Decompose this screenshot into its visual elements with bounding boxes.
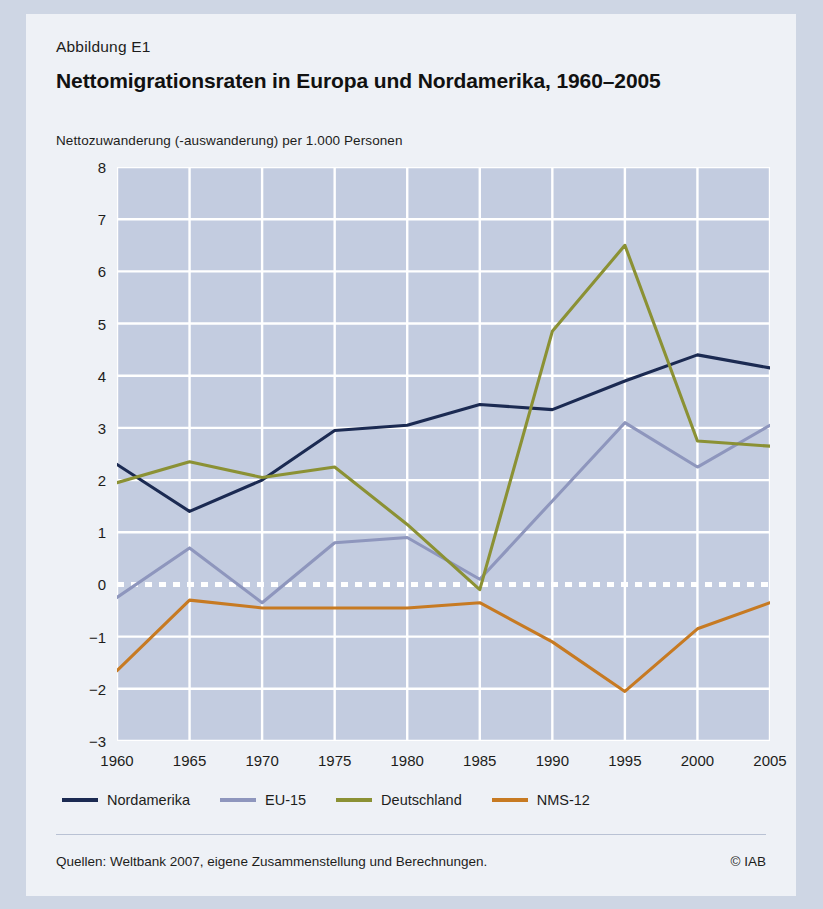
legend-label-deutschland: Deutschland [381, 792, 462, 808]
legend-label-nordamerika: Nordamerika [107, 792, 190, 808]
series-line-nms-12 [117, 600, 770, 691]
x-axis-tick-label: 2005 [753, 752, 786, 769]
chart-legend: NordamerikaEU-15DeutschlandNMS-12 [62, 792, 620, 808]
y-axis-tick-label: 5 [98, 315, 106, 332]
legend-label-nms-12: NMS-12 [537, 792, 590, 808]
legend-swatch-eu-15 [220, 798, 256, 802]
chart-plot: 876543210−1−2−3 196019651970197519801985… [117, 167, 770, 741]
legend-item-nms-12[interactable]: NMS-12 [492, 792, 590, 808]
y-axis-tick-label: −3 [89, 733, 106, 750]
series-lines [117, 245, 770, 691]
y-axis-tick-label: 3 [98, 419, 106, 436]
source-note: Quellen: Weltbank 2007, eigene Zusammens… [56, 854, 487, 869]
x-axis-tick-label: 2000 [681, 752, 714, 769]
y-axis-tick-label: 8 [98, 159, 106, 176]
x-axis-tick-label: 1980 [391, 752, 424, 769]
legend-swatch-nordamerika [62, 798, 98, 802]
copyright-note: © IAB [731, 854, 766, 869]
y-axis-tick-label: −2 [89, 680, 106, 697]
y-axis-tick-label: 4 [98, 367, 106, 384]
page-title: Nettomigrationsraten in Europa und Norda… [56, 69, 661, 93]
gridlines [117, 167, 770, 741]
chart-svg [117, 167, 770, 741]
legend-label-eu-15: EU-15 [265, 792, 306, 808]
x-axis-tick-label: 1965 [173, 752, 206, 769]
y-axis-tick-label: −1 [89, 628, 106, 645]
footer-divider [56, 834, 766, 835]
legend-item-nordamerika[interactable]: Nordamerika [62, 792, 190, 808]
y-axis-tick-label: 1 [98, 524, 106, 541]
y-axis-tick-label: 7 [98, 211, 106, 228]
legend-swatch-nms-12 [492, 798, 528, 802]
x-axis-tick-label: 1975 [318, 752, 351, 769]
legend-item-deutschland[interactable]: Deutschland [336, 792, 462, 808]
y-axis-tick-label: 2 [98, 472, 106, 489]
legend-swatch-deutschland [336, 798, 372, 802]
legend-item-eu-15[interactable]: EU-15 [220, 792, 306, 808]
y-axis-tick-label: 6 [98, 263, 106, 280]
x-axis-tick-label: 1995 [608, 752, 641, 769]
series-line-eu-15 [117, 423, 770, 603]
x-axis-tick-label: 1970 [245, 752, 278, 769]
figure-number: Abbildung E1 [56, 38, 151, 56]
figure-panel: Abbildung E1 Nettomigrationsraten in Eur… [26, 14, 796, 896]
x-axis-tick-label: 1985 [463, 752, 496, 769]
x-axis-tick-label: 1990 [536, 752, 569, 769]
axis-unit-caption: Nettozuwanderung (-auswanderung) per 1.0… [56, 133, 403, 148]
x-axis-tick-label: 1960 [100, 752, 133, 769]
series-line-deutschland [117, 245, 770, 589]
series-line-nordamerika [117, 355, 770, 512]
y-axis-tick-label: 0 [98, 576, 106, 593]
